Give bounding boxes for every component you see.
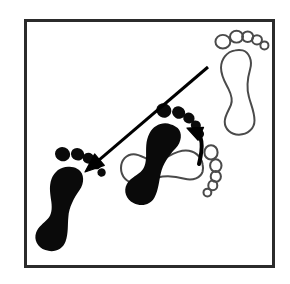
diagram-canvas: Footprint pivot and step diagram Outline… (0, 0, 290, 284)
footprint-diagram-svg (0, 0, 290, 284)
